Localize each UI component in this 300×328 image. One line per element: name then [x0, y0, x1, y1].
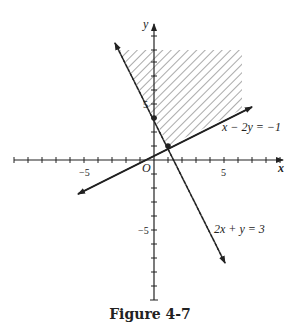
y-intercept-point [151, 115, 157, 121]
x-tick-label-neg5: −5 [79, 167, 90, 178]
y-tick-label-5: 5 [143, 99, 148, 110]
y-tick-label-neg5: −5 [138, 225, 149, 236]
line2-equation-label: 2x + y = 3 [214, 222, 265, 236]
origin-label: O [142, 161, 151, 175]
inequality-graph: y x O −5 5 5 −5 x − 2y = −1 2x + y = 3 [0, 0, 300, 328]
x-axis-label: x [277, 161, 284, 175]
y-axis-label: y [142, 17, 149, 31]
figure-caption: Figure 4-7 [0, 306, 300, 322]
x-tick-label-5: 5 [221, 167, 226, 178]
intersection-point [165, 143, 171, 149]
line1-equation-label: x − 2y = −1 [221, 120, 281, 134]
shaded-solution-region [110, 50, 250, 150]
